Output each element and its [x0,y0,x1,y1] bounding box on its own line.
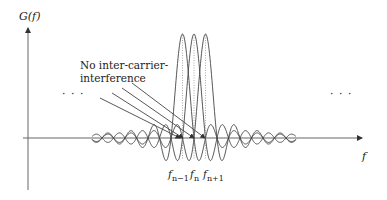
ofdm-spectrum-diagram: G(f) f No inter-carrier- interference · … [0,0,387,200]
annotation-no-ici: No inter-carrier- interference [80,59,168,85]
zero-crossing-arrows [100,83,205,138]
annotation-line-2: interference [80,72,168,85]
label-f-n-minus-1: fn−1 [168,168,189,183]
y-axis-label: G(f) [19,10,40,23]
annotation-line-1: No inter-carrier- [80,59,168,72]
x-axis-label: f [362,150,366,163]
label-f-n-plus-1: fn+1 [203,168,224,183]
label-f-n: fn [190,168,199,183]
ellipsis-left: · · · [62,88,84,101]
ellipsis-right: · · · [330,88,352,101]
